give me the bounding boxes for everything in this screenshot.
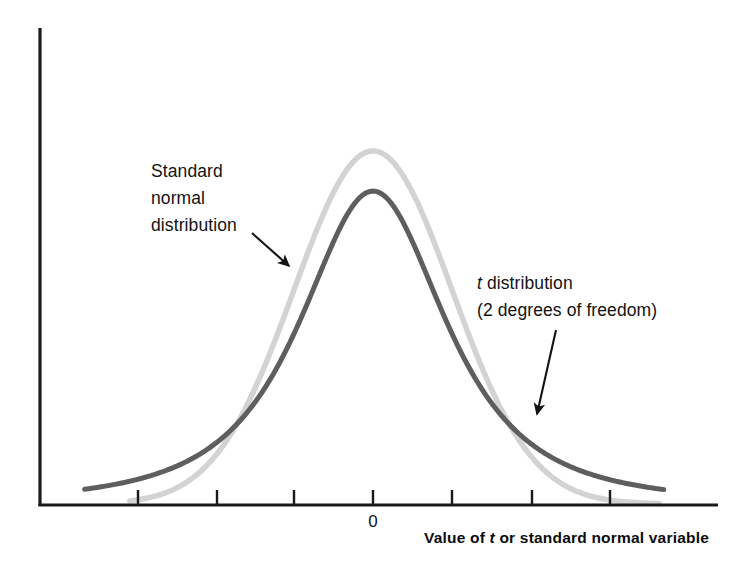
x-axis-title-suffix: or standard normal variable bbox=[495, 529, 709, 546]
statistical-chart-figure: Standard normal distribution t distribut… bbox=[0, 0, 750, 570]
t-distribution-annotation-line-1-rest: distribution bbox=[482, 273, 573, 293]
x-axis-ticks bbox=[138, 490, 610, 505]
x-axis-tick-label-zero: 0 bbox=[358, 512, 388, 532]
x-axis-title-prefix: Value of bbox=[424, 529, 490, 546]
t-distribution-arrow bbox=[537, 330, 556, 414]
standard-normal-annotation-line-2: normal bbox=[151, 185, 237, 212]
standard-normal-annotation-line-1: Standard bbox=[151, 158, 237, 185]
t-distribution-annotation-line-2: (2 degrees of freedom) bbox=[477, 297, 657, 324]
t-distribution-annotation-line-1: t distribution bbox=[477, 270, 657, 297]
standard-normal-arrow bbox=[252, 233, 289, 266]
t-distribution-annotation: t distribution (2 degrees of freedom) bbox=[477, 270, 657, 324]
standard-normal-annotation: Standard normal distribution bbox=[151, 158, 237, 239]
x-axis-title: Value of t or standard normal variable bbox=[424, 529, 709, 547]
standard-normal-annotation-line-3: distribution bbox=[151, 212, 237, 239]
